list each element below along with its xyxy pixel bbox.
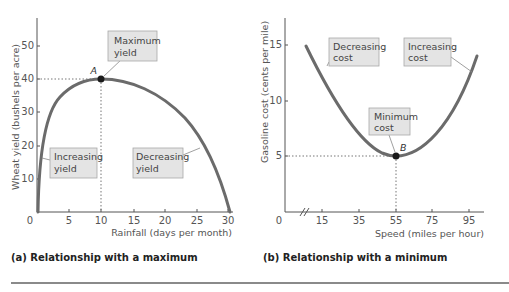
callout-minimum-cost-line2: cost [374,122,394,133]
chart-b-y-tick-10: 10 [269,95,282,106]
chart-a-curve [38,79,230,212]
chart-a-x-tick-30: 30 [222,215,235,226]
chart-a-x-tick-15: 15 [128,215,141,226]
point-a-label: A [90,65,98,76]
chart-b-x-tick-15: 15 [316,215,329,226]
chart-b-y-axis-title: Gasoline cost (cents per mile) [259,21,270,163]
chart-b-x-axis-title: Speed (miles per hour) [375,228,484,239]
callout-decreasing-yield-line2: yield [136,163,159,174]
chart-a-x-axis-title: Rainfall (days per month) [111,227,232,238]
chart-a-y-tick-10: 10 [21,173,34,184]
chart-b-x-tick-35: 35 [353,215,366,226]
chart-a-x-tick-0: 0 [27,215,33,226]
chart-a-x-tick-10: 10 [95,215,108,226]
chart-b: 5 10 15 0 15 35 55 75 95 Speed (miles pe… [259,18,484,263]
chart-b-y-tick-5: 5 [276,150,282,161]
callout-increasing-yield-leader [42,158,50,160]
chart-b-x-tick-95: 95 [463,215,476,226]
callout-decreasing-cost-line2: cost [333,52,353,63]
callout-decreasing-cost-line1: Decreasing [333,41,386,52]
callout-maximum-yield-line1: Maximum [114,35,161,46]
callout-decreasing-yield-line1: Decreasing [136,151,189,162]
chart-a: 10 20 30 40 50 0 5 10 15 20 25 30 Rainfa… [10,18,234,263]
chart-a-y-tick-50: 50 [21,40,34,51]
callout-minimum-cost-leader [389,135,395,152]
callout-maximum-yield-line2: yield [114,47,137,58]
chart-a-x-tick-25: 25 [191,215,204,226]
chart-a-y-tick-20: 20 [21,140,34,151]
callout-increasing-yield-line1: Increasing [54,151,103,162]
chart-a-y-tick-30: 30 [21,106,34,117]
chart-a-y-tick-40: 40 [21,73,34,84]
callout-increasing-cost-line2: cost [408,52,428,63]
point-b-marker [393,153,400,160]
chart-a-y-axis-title: Wheat yield (bushels per acre) [10,44,21,190]
point-b-label: B [400,142,407,153]
chart-a-x-tick-20: 20 [159,215,172,226]
chart-a-x-tick-5: 5 [66,215,72,226]
chart-b-caption: (b) Relationship with a minimum [263,252,447,263]
chart-b-x-tick-55: 55 [390,215,403,226]
figure: 10 20 30 40 50 0 5 10 15 20 25 30 Rainfa… [0,0,509,292]
callout-increasing-yield-line2: yield [54,163,77,174]
chart-b-x-tick-0: 0 [276,215,282,226]
chart-b-x-tick-75: 75 [426,215,439,226]
callout-increasing-cost-leader [451,57,472,72]
chart-a-caption: (a) Relationship with a maximum [11,252,198,263]
chart-b-y-tick-15: 15 [269,39,282,50]
callout-minimum-cost-line1: Minimum [374,111,418,122]
callout-increasing-cost-line1: Increasing [408,41,457,52]
